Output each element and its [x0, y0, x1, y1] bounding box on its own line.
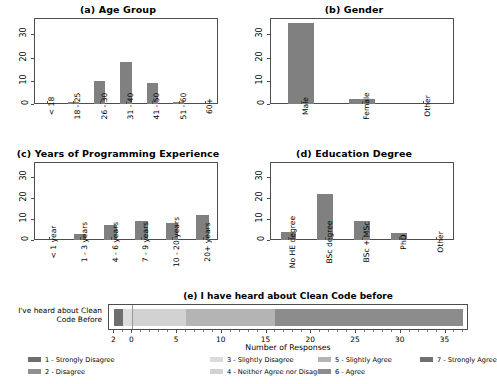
x-tick-label-experience: 10 - 20 years	[172, 217, 181, 267]
x-tick-label-education: BSc degree	[325, 220, 334, 263]
y-axis-education-degree: 0102030	[236, 162, 270, 240]
likert-segment	[114, 309, 123, 326]
x-tick-label-experience: 7 - 9 years	[141, 222, 150, 263]
x-tick-slot: Other	[393, 104, 454, 146]
x-tick-label-education: BSc + MSc	[362, 222, 371, 263]
likert-segment	[275, 309, 463, 326]
legend-item: 1 - Strongly Disagree	[28, 354, 115, 365]
bar-slot	[60, 18, 86, 104]
chart-title-clean-code-likert: (e) I have heard about Clean Code before	[108, 291, 468, 301]
x-tick-slot: 26 - 30	[87, 104, 113, 146]
bar-slot	[331, 18, 392, 104]
x-tick-mark-minor	[337, 330, 338, 332]
x-tick-mark	[113, 330, 114, 333]
x-tick-mark-minor	[436, 330, 437, 332]
legend-label: 6 - Agree	[335, 368, 365, 376]
x-tick-label-experience: 20+ years	[203, 222, 212, 261]
legend-clean-code-likert: 1 - Strongly Disagree2 - Disagree3 - Sli…	[0, 354, 472, 380]
likert-segment	[132, 309, 186, 326]
x-tick-slot: 10 - 20 years	[157, 240, 188, 288]
y-tick-label: 30	[254, 28, 264, 37]
legend-label: 2 - Disagree	[45, 368, 85, 376]
x-tick-slot: < 18	[34, 104, 60, 146]
x-tick-mark	[131, 330, 132, 333]
x-tick-mark	[310, 330, 311, 333]
x-tick-slot: < 1 year	[34, 240, 65, 288]
x-tick-mark-minor	[230, 330, 231, 332]
legend-item: 2 - Disagree	[28, 366, 115, 377]
x-tick-mark-minor	[158, 330, 159, 332]
bar-series-age-group	[34, 18, 218, 104]
legend-item: 5 - Slightly Agree	[318, 354, 392, 365]
y-tick-label: 30	[18, 171, 28, 180]
legend-swatch	[210, 369, 223, 374]
chart-panel-clean-code-likert: (e) I have heard about Clean Code before…	[0, 288, 472, 384]
x-tick-mark-minor	[212, 330, 213, 332]
x-tick-label-experience: 4 - 6 years	[111, 222, 120, 263]
x-tick-mark-minor	[462, 330, 463, 332]
legend-swatch	[318, 369, 331, 374]
x-tick-mark-minor	[391, 330, 392, 332]
x-tick-slot: 31 - 40	[113, 104, 139, 146]
legend-swatch	[28, 369, 41, 374]
bar-slot	[380, 162, 417, 240]
bar-slot	[270, 18, 331, 104]
x-tick-mark-minor	[185, 330, 186, 332]
legend-column: 3 - Slightly Disagree4 - Neither Agree n…	[210, 354, 328, 378]
legend-label: 4 - Neither Agree nor Disagree	[227, 368, 328, 376]
legend-label: 7 - Strongly Agree	[437, 356, 497, 364]
x-tick-mark-minor	[364, 330, 365, 332]
x-tick-slot: Female	[331, 104, 392, 146]
chart-panel-gender: (b) Gender 0102030 MaleFemaleOther	[236, 4, 472, 146]
legend-swatch	[318, 357, 331, 362]
x-tick-mark	[266, 330, 267, 333]
y-tick-label: 0	[259, 234, 264, 243]
x-tick-mark	[221, 330, 222, 333]
x-tick-mark	[400, 330, 401, 333]
x-tick-label-education: PhD	[399, 234, 408, 249]
x-axis-title-clean-code-likert: Number of Responses	[108, 343, 468, 352]
x-tick-mark-minor	[167, 330, 168, 332]
x-tick-slot: Other	[417, 240, 454, 288]
x-tick-slot: 1 - 3 years	[65, 240, 96, 288]
bar-slot	[139, 18, 165, 104]
legend-label: 5 - Slightly Agree	[335, 356, 392, 364]
x-tick-mark-minor	[427, 330, 428, 332]
y-tick-label: 0	[23, 234, 28, 243]
x-tick-label-age-group: 41 - 50	[152, 93, 161, 120]
x-tick-mark-minor	[257, 330, 258, 332]
y-tick-label: 10	[254, 75, 264, 84]
x-tick-label-age-group: 31 - 40	[126, 93, 135, 120]
x-axis-age-group: < 1818 - 2526 - 3031 - 4041 - 5051 - 606…	[34, 104, 218, 146]
x-tick-mark-minor	[140, 330, 141, 332]
x-axis-education-degree: No HE degreeBSc degreeBSc + MScPhDOther	[270, 240, 454, 288]
x-tick-label-age-group: < 18	[47, 97, 56, 115]
bar	[288, 23, 314, 104]
x-tick-mark-minor	[194, 330, 195, 332]
likert-segment	[186, 309, 276, 326]
chart-title-programming-experience: (c) Years of Programming Experience	[0, 148, 236, 159]
x-tick-mark-minor	[373, 330, 374, 332]
legend-swatch	[28, 357, 41, 362]
legend-item: 6 - Agree	[318, 366, 392, 377]
y-tick-label: 20	[18, 192, 28, 201]
x-axis-gender: MaleFemaleOther	[270, 104, 454, 146]
x-tick-label-gender: Male	[301, 97, 310, 115]
likert-stacked-bar	[109, 309, 467, 326]
legend-column: 7 - Strongly Agree	[420, 354, 497, 366]
plot-area-clean-code-likert	[108, 304, 468, 330]
x-tick-mark-minor	[409, 330, 410, 332]
bar-slot	[393, 18, 454, 104]
legend-label: 1 - Strongly Disagree	[45, 356, 115, 364]
x-tick-mark-minor	[239, 330, 240, 332]
bar-series-programming-experience	[34, 162, 218, 240]
legend-item: 7 - Strongly Agree	[420, 354, 497, 365]
y-tick-label: 20	[254, 52, 264, 61]
y-axis-gender: 0102030	[236, 18, 270, 104]
legend-column: 1 - Strongly Disagree2 - Disagree	[28, 354, 115, 378]
chart-panel-programming-experience: (c) Years of Programming Experience 0102…	[0, 148, 236, 288]
chart-title-gender: (b) Gender	[236, 4, 472, 15]
y-tick-label: 10	[18, 213, 28, 222]
legend-column: 5 - Slightly Agree6 - Agree	[318, 354, 392, 378]
